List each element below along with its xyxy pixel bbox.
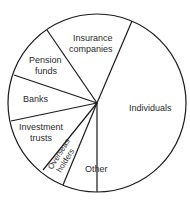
slice-label-individuals: Individuals (129, 103, 172, 113)
slice-label-insurance-line1: Insurance (73, 33, 113, 43)
slice-label-banks: Banks (23, 94, 49, 104)
slice-label-insurance-line2: companies (69, 44, 113, 54)
pie-chart: Individuals Other Overseas holders Inves… (0, 0, 190, 200)
slice-label-investment-line2: trusts (30, 133, 53, 143)
slice-label-pension-line1: Pension (29, 55, 62, 65)
slice-label-pension-line2: funds (35, 66, 58, 76)
slice-label-other: Other (85, 164, 108, 174)
slice-label-investment-line1: Investment (19, 122, 64, 132)
